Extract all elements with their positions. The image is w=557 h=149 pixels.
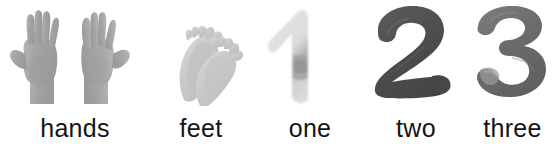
card-feet: feet (148, 0, 254, 149)
left-hand-icon (10, 10, 59, 104)
numeral-three-figure (468, 0, 557, 112)
numeral-one-figure (256, 0, 364, 112)
card-label-feet: feet (148, 113, 254, 143)
numeral-two-figure (366, 0, 466, 112)
card-label-three: three (468, 113, 557, 143)
card-three: three (468, 0, 557, 149)
hands-figure (8, 0, 142, 112)
card-one: one (256, 0, 364, 149)
brush-numeral-two-icon (375, 6, 451, 98)
card-two: two (366, 0, 466, 149)
card-hands: hands (8, 0, 142, 149)
brush-numeral-three-icon (477, 6, 546, 97)
brush-numeral-one-icon (268, 10, 308, 103)
card-label-two: two (366, 113, 466, 143)
feet-figure (148, 0, 254, 112)
right-hand-icon (81, 12, 130, 104)
card-label-one: one (256, 113, 364, 143)
card-label-hands: hands (8, 113, 142, 143)
flashcard-strip: hands (0, 0, 557, 149)
